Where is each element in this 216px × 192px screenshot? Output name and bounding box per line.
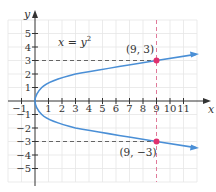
x-tick-label: 10 [164,103,177,114]
y-tick-label: 5 [25,28,31,39]
x-tick-label: 4 [86,103,92,114]
point-lower-marker [154,139,160,145]
x-tick-label: 2 [59,103,65,114]
equation-lhs: x = y [58,36,87,49]
curve-arrow-lower-icon [190,145,199,151]
curve-arrow-upper-icon [190,52,199,58]
y-tick-label: 1 [25,82,31,93]
x-tick-label: 3 [72,103,78,114]
x-tick-label: 6 [113,103,119,114]
equation-exponent: 2 [87,35,91,43]
y-tick-label: −5 [16,163,31,174]
x-tick-label: 8 [140,103,146,114]
y-axis-arrow-icon [32,10,38,18]
y-tick-label: 3 [25,55,31,66]
x-tick-label: 5 [99,103,105,114]
x-tick-label: 1 [45,103,51,114]
y-tick-label: −2 [16,123,31,134]
x-axis-label: x [208,103,215,116]
y-axis-label: y [23,8,31,21]
y-tick-label: 2 [25,69,31,80]
x-tick-label: 11 [177,103,190,114]
equation-label: x = y2 [58,35,91,49]
point-upper-marker [154,58,160,64]
axes [8,10,211,186]
y-tick-label: −4 [16,150,31,161]
y-tick-label: −1 [16,109,31,120]
x-tick-label: 9 [153,103,159,114]
point-upper-label: (9, 3) [126,43,154,55]
point-lower-label: (9, −3) [119,146,156,158]
y-tick-label: −3 [16,136,31,147]
chart-svg: −1 1 2 3 4 5 6 7 8 9 10 11 5 4 3 2 1 −1 … [0,0,216,192]
x-tick-label: 7 [126,103,132,114]
parabola-chart: −1 1 2 3 4 5 6 7 8 9 10 11 5 4 3 2 1 −1 … [0,0,216,192]
y-tick-label: 4 [25,42,31,53]
